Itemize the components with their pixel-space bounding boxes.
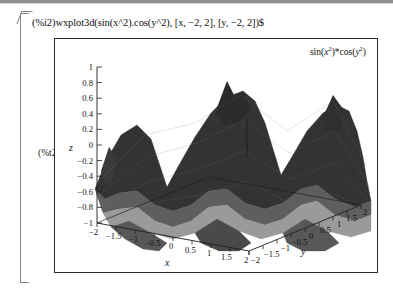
z-tick-5: 0 [89,140,93,150]
x-tick-8: 2 [244,255,248,265]
x-tick-7: 1.5 [221,252,232,262]
plot-frame[interactable]: sin(x2)*cos(y2) [54,38,378,273]
z-tick-1: 0.8 [82,78,93,88]
x-axis-label: x [164,257,170,268]
x-tick-0: −2 [89,227,98,237]
y-tick-0: −2 [251,255,260,265]
input-prompt: (%i2) [32,17,55,28]
z-tick-8: −0.6 [77,187,93,197]
z-axis: 1 0.8 0.6 0.4 0.2 0 −0.2 −0.4 −0.6 −0.8 … [68,62,102,228]
x-tick-2: −1 [129,234,138,244]
y-tick-1: −1.5 [264,249,280,259]
x-tick-6: 1 [207,248,211,258]
x-tick-1: −1.5 [106,231,122,241]
z-axis-label: z [68,142,73,153]
cell-group-bracket[interactable] [20,13,29,283]
z-tick-7: −0.4 [77,171,93,181]
input-command: wxplot3d(sin(x^2).cos(y^2), [x, −2, 2], … [55,17,264,28]
x-tick-4: 0 [169,241,173,251]
y-tick-2: −1 [281,243,290,253]
x-tick-3: −0.5 [145,238,161,248]
z-tick-0: 1 [89,62,93,72]
input-cell-text[interactable]: (%i2)wxplot3d(sin(x^2).cos(y^2), [x, −2,… [32,16,264,29]
x-tick-5: 0.5 [185,245,196,255]
z-tick-4: 0.2 [82,124,93,134]
y-tick-5: 0.5 [320,225,331,235]
z-tick-3: 0.4 [82,109,93,119]
y-axis-label: y [300,246,306,257]
y-tick-7: 1.5 [346,213,357,223]
surface-plot-canvas: 1 0.8 0.6 0.4 0.2 0 −0.2 −0.4 −0.6 −0.8 … [55,39,378,273]
y-tick-4: 0 [309,231,313,241]
y-tick-6: 1 [337,219,341,229]
y-tick-8: 2 [363,207,367,217]
wxmaxima-window: (%i2)wxplot3d(sin(x^2).cos(y^2), [x, −2,… [0,0,393,295]
z-tick-9: −0.8 [77,202,93,212]
window-top-edge-highlight [0,3,393,4]
z-tick-6: −0.2 [77,156,93,166]
z-tick-2: 0.6 [82,93,93,103]
